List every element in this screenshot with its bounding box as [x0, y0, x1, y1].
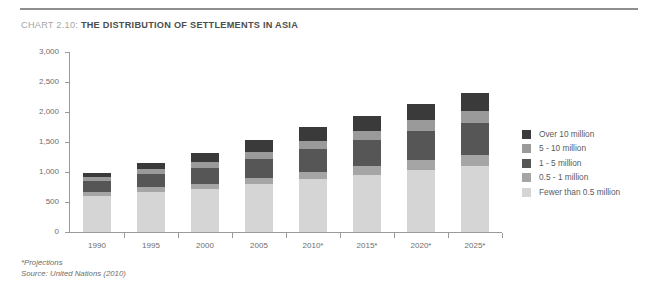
- bar-segment[interactable]: [83, 181, 111, 192]
- x-tick-label: 2020*: [394, 241, 448, 250]
- bar-stack[interactable]: [245, 140, 273, 232]
- x-tick-label: 2015*: [340, 241, 394, 250]
- header-rule: [20, 8, 638, 10]
- y-tick-label: 2,000: [13, 108, 59, 116]
- bar-stack[interactable]: [299, 127, 327, 232]
- legend-item[interactable]: 5 - 10 million: [522, 142, 642, 157]
- x-tick-label: 2000: [178, 241, 232, 250]
- bar-segment[interactable]: [191, 168, 219, 184]
- x-tick-label: 2025*: [448, 241, 502, 250]
- x-tick-label: 2010*: [286, 241, 340, 250]
- legend-item[interactable]: Over 10 million: [522, 127, 642, 142]
- bar-segment[interactable]: [137, 192, 165, 232]
- y-tick: [65, 232, 70, 233]
- y-tick-label: 1,000: [13, 168, 59, 176]
- legend-item-label: Fewer than 0.5 million: [539, 188, 620, 197]
- legend-item-label: 5 - 10 million: [539, 144, 586, 153]
- bar-segment[interactable]: [353, 166, 381, 175]
- y-tick: [65, 82, 70, 83]
- bar-segment[interactable]: [407, 131, 435, 160]
- bar-segment[interactable]: [353, 116, 381, 131]
- bar-stack[interactable]: [353, 116, 381, 232]
- bar-stack[interactable]: [191, 153, 219, 232]
- y-tick: [65, 172, 70, 173]
- x-tick: [340, 233, 341, 238]
- footnotes: *Projections Source: United Nations (201…: [21, 258, 126, 279]
- bar-segment[interactable]: [461, 123, 489, 155]
- bar-segment[interactable]: [299, 172, 327, 179]
- legend-item[interactable]: 1 - 5 million: [522, 156, 642, 171]
- x-tick: [502, 233, 503, 238]
- bar-stack[interactable]: [137, 163, 165, 232]
- y-tick-label: 2,500: [13, 78, 59, 86]
- footnote-source: Source: United Nations (2010): [21, 269, 126, 280]
- bar-segment[interactable]: [299, 127, 327, 141]
- y-tick-label: 3,000: [13, 48, 59, 56]
- x-tick: [448, 233, 449, 238]
- legend-swatch-icon: [522, 130, 531, 139]
- bar-segment[interactable]: [461, 166, 489, 232]
- bar-segment[interactable]: [407, 120, 435, 131]
- legend-swatch-icon: [522, 173, 531, 182]
- legend-item[interactable]: 0.5 - 1 million: [522, 171, 642, 186]
- y-tick: [65, 142, 70, 143]
- y-tick-label: 1,500: [13, 138, 59, 146]
- plot-area: 05001,0001,5002,0002,5003,000 1990199520…: [70, 52, 502, 232]
- legend-item[interactable]: Fewer than 0.5 million: [522, 185, 642, 200]
- bar-segment[interactable]: [137, 174, 165, 188]
- x-tick: [124, 233, 125, 238]
- x-tick: [232, 233, 233, 238]
- footnote-projections: *Projections: [21, 258, 126, 269]
- bar-segment[interactable]: [407, 160, 435, 171]
- bar-segment[interactable]: [299, 179, 327, 232]
- bar-segment[interactable]: [353, 175, 381, 232]
- bar-segment[interactable]: [461, 155, 489, 166]
- x-tick-label: 2005: [232, 241, 286, 250]
- x-tick: [394, 233, 395, 238]
- bar-segment[interactable]: [245, 140, 273, 152]
- legend-swatch-icon: [522, 188, 531, 197]
- bar-segment[interactable]: [83, 196, 111, 232]
- legend-swatch-icon: [522, 144, 531, 153]
- legend: Over 10 million5 - 10 million1 - 5 milli…: [522, 127, 642, 200]
- chart-headline: THE DISTRIBUTION OF SETTLEMENTS IN ASIA: [81, 20, 298, 30]
- y-tick: [65, 112, 70, 113]
- y-tick: [65, 52, 70, 53]
- bar-segment[interactable]: [191, 189, 219, 232]
- x-tick: [178, 233, 179, 238]
- legend-item-label: 1 - 5 million: [539, 159, 581, 168]
- bar-segment[interactable]: [353, 131, 381, 140]
- x-tick-label: 1995: [124, 241, 178, 250]
- bar-segment[interactable]: [461, 93, 489, 111]
- page-title: CHART 2.10: THE DISTRIBUTION OF SETTLEME…: [21, 20, 298, 31]
- y-tick: [65, 202, 70, 203]
- bar-segment[interactable]: [299, 149, 327, 172]
- bar-segment[interactable]: [245, 152, 273, 159]
- bar-segment[interactable]: [407, 170, 435, 232]
- bar-segment[interactable]: [299, 141, 327, 149]
- bar-segment[interactable]: [245, 184, 273, 232]
- legend-item-label: 0.5 - 1 million: [539, 173, 588, 182]
- legend-item-label: Over 10 million: [539, 130, 594, 139]
- bar-segment[interactable]: [191, 153, 219, 162]
- x-tick-label: 1990: [70, 241, 124, 250]
- legend-swatch-icon: [522, 159, 531, 168]
- bar-segment[interactable]: [353, 140, 381, 166]
- chart-number-label: CHART 2.10:: [21, 20, 78, 30]
- y-tick-label: 0: [13, 228, 59, 236]
- bar-segment[interactable]: [407, 104, 435, 120]
- bar-stack[interactable]: [83, 173, 111, 232]
- bar-stack[interactable]: [461, 93, 489, 232]
- bar-stack[interactable]: [407, 104, 435, 232]
- bar-segment[interactable]: [461, 111, 489, 123]
- x-tick: [286, 233, 287, 238]
- chart-page: CHART 2.10: THE DISTRIBUTION OF SETTLEME…: [0, 0, 648, 287]
- bar-segment[interactable]: [245, 159, 273, 178]
- y-tick-label: 500: [13, 198, 59, 206]
